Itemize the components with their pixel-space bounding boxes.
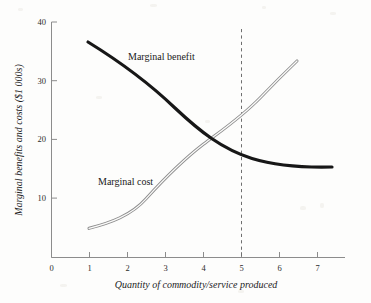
chart-svg: 40 30 20 10 0 1 2 3 4 5 6 7 Marginal ben… bbox=[0, 0, 371, 303]
marginal-cost-label: Marginal cost bbox=[98, 176, 153, 187]
marginal-cost-curve bbox=[89, 61, 297, 228]
x-tick-label-6: 6 bbox=[277, 263, 281, 273]
chart-figure: 40 30 20 10 0 1 2 3 4 5 6 7 Marginal ben… bbox=[0, 0, 371, 303]
x-tick-label-0: 0 bbox=[49, 263, 53, 273]
x-axis-title: Quantity of commodity/service produced bbox=[115, 279, 279, 290]
marginal-benefit-label: Marginal benefit bbox=[128, 51, 195, 62]
x-tick-label-2: 2 bbox=[125, 263, 129, 273]
y-axis-title: Marginal benefits and costs ($1 000s) bbox=[13, 64, 25, 217]
y-tick-label-30: 30 bbox=[38, 76, 47, 86]
y-tick-label-10: 10 bbox=[38, 193, 47, 203]
x-tick-label-1: 1 bbox=[87, 263, 91, 273]
y-tick-label-40: 40 bbox=[38, 17, 47, 27]
x-tick-label-7: 7 bbox=[315, 263, 319, 273]
x-tick-label-4: 4 bbox=[201, 263, 206, 273]
x-tick-label-5: 5 bbox=[239, 263, 243, 273]
y-tick-label-20: 20 bbox=[38, 134, 47, 144]
chart-page: 40 30 20 10 0 1 2 3 4 5 6 7 Marginal ben… bbox=[0, 0, 371, 303]
marginal-cost-curve-highlight bbox=[89, 61, 297, 228]
y-axis-ticks bbox=[52, 22, 58, 198]
x-tick-label-3: 3 bbox=[163, 263, 167, 273]
x-axis-ticks bbox=[52, 252, 318, 258]
